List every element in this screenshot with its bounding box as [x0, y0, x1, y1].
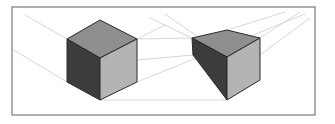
guide-line	[137, 25, 165, 39]
guide-line	[12, 49, 67, 82]
guide-line	[260, 12, 300, 38]
guide-line	[25, 15, 67, 39]
perspective-diagram	[0, 0, 335, 124]
tapered-box	[192, 30, 260, 100]
cube	[67, 20, 137, 100]
frame-border	[12, 7, 315, 115]
vanishing-guide-lines	[12, 12, 310, 100]
guide-line	[137, 38, 192, 39]
guide-line	[260, 18, 310, 55]
guide-line	[137, 55, 193, 60]
